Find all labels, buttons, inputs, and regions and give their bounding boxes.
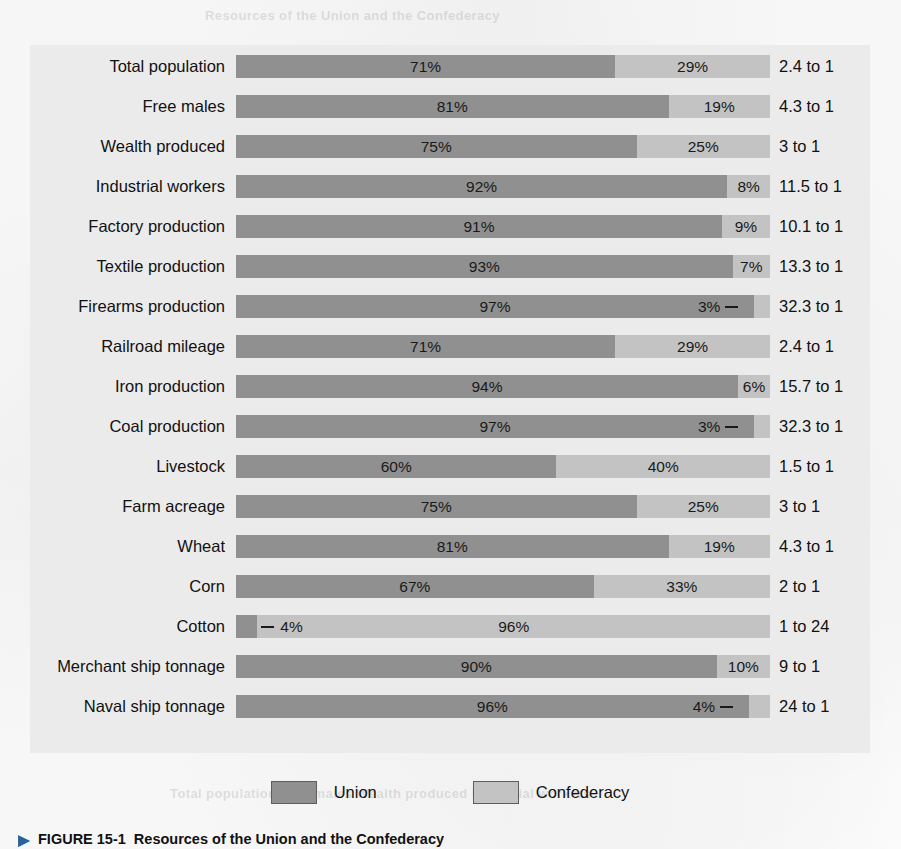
stacked-bar: 60%40% — [236, 455, 770, 478]
chart-legend: Union Confederacy — [30, 775, 870, 809]
ratio-label: 32.3 to 1 — [779, 415, 843, 438]
stacked-bar: 90%10% — [236, 655, 770, 678]
chart-row: Coal production97%3%32.3 to 1 — [30, 415, 870, 455]
chart-row: Total population71%29%2.4 to 1 — [30, 55, 870, 95]
row-label: Wealth produced — [30, 135, 225, 158]
leader-dash-icon — [725, 426, 738, 428]
chart-row: Cotton4%96%1 to 24 — [30, 615, 870, 655]
chart-row: Naval ship tonnage96%4%24 to 1 — [30, 695, 870, 735]
stacked-bar: 93%7% — [236, 255, 770, 278]
union-percent-label: 60% — [236, 455, 556, 478]
ratio-label: 32.3 to 1 — [779, 295, 843, 318]
stacked-bar: 91%9% — [236, 215, 770, 238]
leader-dash-icon — [720, 706, 733, 708]
chart-row: Wealth produced75%25%3 to 1 — [30, 135, 870, 175]
legend-swatch-confederacy-icon — [473, 781, 519, 804]
confederacy-percent-label: 29% — [615, 55, 770, 78]
confederacy-percent-label: 6% — [738, 375, 770, 398]
row-label: Corn — [30, 575, 225, 598]
confederacy-percent-label: 96% — [257, 615, 770, 638]
row-label: Textile production — [30, 255, 225, 278]
chart-panel: Total population71%29%2.4 to 1Free males… — [30, 45, 870, 753]
chart-row: Corn67%33%2 to 1 — [30, 575, 870, 615]
confederacy-percent-label: 19% — [669, 95, 770, 118]
legend-label-confederacy: Confederacy — [536, 783, 630, 802]
legend-swatch-union-icon — [271, 781, 317, 804]
stacked-bar: 75%25% — [236, 135, 770, 158]
ratio-label: 3 to 1 — [779, 495, 820, 518]
row-label: Coal production — [30, 415, 225, 438]
ratio-label: 4.3 to 1 — [779, 535, 834, 558]
row-label: Livestock — [30, 455, 225, 478]
union-percent-label: 97% — [236, 295, 754, 318]
legend-item-confederacy: Confederacy — [473, 781, 630, 804]
ratio-label: 2.4 to 1 — [779, 55, 834, 78]
stacked-bar: 4%96% — [236, 615, 770, 638]
chart-row: Merchant ship tonnage90%10%9 to 1 — [30, 655, 870, 695]
union-percent-label: 96% — [236, 695, 749, 718]
leader-dash-icon — [725, 306, 738, 308]
ratio-label: 11.5 to 1 — [779, 175, 842, 198]
chart-row: Iron production94%6%15.7 to 1 — [30, 375, 870, 415]
chart-row: Free males81%19%4.3 to 1 — [30, 95, 870, 135]
confederacy-percent-label: 29% — [615, 335, 770, 358]
union-percent-label: 75% — [236, 135, 637, 158]
row-label: Naval ship tonnage — [30, 695, 225, 718]
union-percent-label: 94% — [236, 375, 738, 398]
figure-caption: ▶ FIGURE 15-1 Resources of the Union and… — [18, 832, 444, 849]
row-label: Cotton — [30, 615, 225, 638]
stacked-bar: 81%19% — [236, 95, 770, 118]
caption-title: Resources of the Union and the Confedera… — [134, 832, 444, 847]
stacked-bar: 94%6% — [236, 375, 770, 398]
union-percent-label: 92% — [236, 175, 727, 198]
confederacy-percent-label: 19% — [669, 535, 770, 558]
union-percent-label: 75% — [236, 495, 637, 518]
row-label: Industrial workers — [30, 175, 225, 198]
confederacy-percent-label: 33% — [594, 575, 770, 598]
union-percent-label: 71% — [236, 55, 615, 78]
page-bleed-top: Resources of the Union and the Confedera… — [205, 8, 635, 23]
confederacy-percent-label: 7% — [733, 255, 770, 278]
ratio-label: 3 to 1 — [779, 135, 820, 158]
ratio-label: 1 to 24 — [779, 615, 829, 638]
row-label: Wheat — [30, 535, 225, 558]
confederacy-percent-label: 25% — [637, 495, 771, 518]
confederacy-percent-label: 8% — [727, 175, 770, 198]
union-percent-label: 90% — [236, 655, 717, 678]
union-percent-label: 71% — [236, 335, 615, 358]
confederacy-percent-label: 3% — [698, 295, 738, 318]
chart-rows: Total population71%29%2.4 to 1Free males… — [30, 55, 870, 735]
row-label: Farm acreage — [30, 495, 225, 518]
ratio-label: 2.4 to 1 — [779, 335, 834, 358]
row-label: Railroad mileage — [30, 335, 225, 358]
ratio-label: 15.7 to 1 — [779, 375, 843, 398]
ratio-label: 4.3 to 1 — [779, 95, 834, 118]
stacked-bar: 71%29% — [236, 55, 770, 78]
union-percent-label: 91% — [236, 215, 722, 238]
chart-row: Industrial workers92%8%11.5 to 1 — [30, 175, 870, 215]
chart-row: Textile production93%7%13.3 to 1 — [30, 255, 870, 295]
chart-row: Factory production91%9%10.1 to 1 — [30, 215, 870, 255]
confederacy-percent-label: 40% — [556, 455, 770, 478]
confederacy-percent-label: 3% — [698, 415, 738, 438]
legend-item-union: Union — [271, 781, 377, 804]
row-label: Free males — [30, 95, 225, 118]
chart-row: Livestock60%40%1.5 to 1 — [30, 455, 870, 495]
union-percent-label: 67% — [236, 575, 594, 598]
ratio-label: 9 to 1 — [779, 655, 820, 678]
stacked-bar: 71%29% — [236, 335, 770, 358]
union-percent-label: 97% — [236, 415, 754, 438]
stacked-bar: 96%4% — [236, 695, 770, 718]
ratio-label: 24 to 1 — [779, 695, 829, 718]
stacked-bar: 97%3% — [236, 295, 770, 318]
row-label: Merchant ship tonnage — [30, 655, 225, 678]
row-label: Iron production — [30, 375, 225, 398]
chart-row: Firearms production97%3%32.3 to 1 — [30, 295, 870, 335]
row-label: Factory production — [30, 215, 225, 238]
ratio-label: 2 to 1 — [779, 575, 820, 598]
confederacy-percent-label: 9% — [722, 215, 770, 238]
stacked-bar: 92%8% — [236, 175, 770, 198]
union-percent-label: 81% — [236, 535, 669, 558]
stacked-bar: 75%25% — [236, 495, 770, 518]
ratio-label: 10.1 to 1 — [779, 215, 843, 238]
